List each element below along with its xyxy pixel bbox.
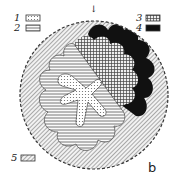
diagram-canvas [0,0,176,178]
legend-swatch-4 [146,25,160,31]
panel-label: b [148,160,156,175]
legend-swatch-1 [26,15,40,21]
legend-number-4: 4 [136,23,142,33]
legend-swatch-2 [26,25,40,31]
arrow-down-icon: ↓ [90,4,98,14]
legend-swatch-5 [21,155,35,161]
legend-swatch-3 [146,15,160,21]
legend-number-2: 2 [14,23,20,33]
legend-number-5: 5 [11,153,17,163]
